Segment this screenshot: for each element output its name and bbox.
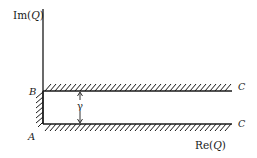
point-b-label: B bbox=[28, 86, 36, 97]
gamma-width-indicator: γ bbox=[77, 92, 83, 123]
point-c-top-label: C bbox=[238, 81, 246, 92]
left-wall-boundary bbox=[36, 91, 43, 127]
gamma-label: γ bbox=[77, 100, 83, 111]
bottom-wall-hatching bbox=[45, 124, 231, 131]
top-wall-hatching bbox=[45, 84, 231, 91]
left-wall-hatching bbox=[36, 92, 43, 127]
point-c-bottom-label: C bbox=[238, 118, 246, 129]
strip-diagram: Im(Q) bbox=[0, 0, 257, 158]
real-axis-label: Re(Q) bbox=[195, 139, 226, 152]
top-wall-boundary bbox=[43, 84, 232, 91]
bottom-wall-boundary bbox=[43, 124, 232, 131]
point-a-label: A bbox=[27, 131, 35, 142]
imaginary-axis-label: Im(Q) bbox=[13, 9, 44, 22]
